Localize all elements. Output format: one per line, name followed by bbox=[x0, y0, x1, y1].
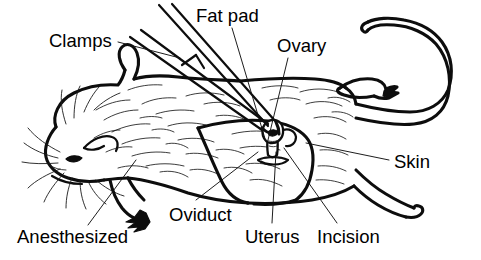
hind-leg-and-foot bbox=[354, 170, 423, 217]
uterus-leader bbox=[272, 152, 276, 223]
skin-leader bbox=[306, 143, 389, 160]
front-leg-and-paw bbox=[110, 178, 150, 232]
mouse-surgery-illustration bbox=[0, 0, 481, 260]
incision-leader bbox=[284, 148, 337, 223]
leader-lines bbox=[88, 28, 389, 225]
fur-texture-strokes bbox=[94, 85, 353, 184]
oviduct-leader bbox=[196, 152, 258, 200]
surgical-forceps-clamps bbox=[130, 4, 279, 134]
clamps-leader bbox=[118, 42, 180, 58]
whiskers bbox=[22, 86, 124, 209]
figure-root: Clamps Fat pad Ovary Skin Anesthesized O… bbox=[0, 0, 481, 260]
fatpad-leader bbox=[232, 28, 266, 142]
front-paw-toes bbox=[126, 210, 150, 232]
mouse-tail bbox=[356, 18, 451, 124]
closed-eye bbox=[66, 136, 118, 162]
mouse-ear bbox=[119, 45, 138, 79]
